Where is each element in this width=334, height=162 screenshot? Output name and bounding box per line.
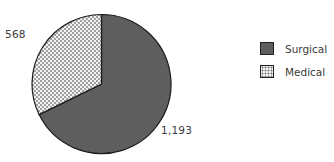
surgical-swatch-icon (260, 42, 274, 55)
medical-swatch-icon (260, 65, 274, 78)
surgical-value-label: 1,193 (161, 124, 192, 136)
medical-value-label: 568 (5, 28, 26, 40)
legend-item-surgical: Surgical (260, 42, 327, 55)
pie-chart (0, 0, 334, 162)
legend-label-medical: Medical (285, 66, 325, 78)
legend-label-surgical: Surgical (285, 43, 327, 55)
legend-item-medical: Medical (260, 65, 325, 78)
